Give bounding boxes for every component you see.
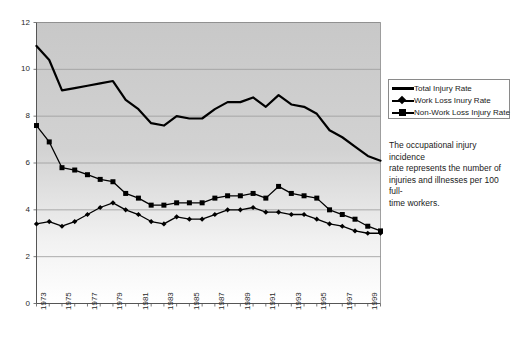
chart-figure: 024681012 197319751977197919811983198519… bbox=[0, 0, 513, 344]
x-axis-tick-label: 1995 bbox=[320, 292, 328, 310]
chart-note: The occupational injury incidencerate re… bbox=[389, 140, 513, 209]
y-axis-tick-label: 10 bbox=[8, 65, 30, 73]
legend-item-work-loss-injury-rate[interactable]: Work Loss Inury Rate bbox=[392, 95, 506, 106]
y-axis-tick-label: 8 bbox=[8, 112, 30, 120]
y-axis-tick-label: 2 bbox=[8, 253, 30, 261]
chart-note-line: injuries and illnesses per 100 full- bbox=[389, 175, 513, 198]
y-axis-tick-label: 4 bbox=[8, 206, 30, 214]
y-axis-tick-label: 0 bbox=[8, 300, 30, 308]
legend-label: Non-Work Loss Injury Rate bbox=[414, 108, 510, 117]
x-axis-tick-label: 1991 bbox=[269, 292, 277, 310]
chart-legend: Total Injury Rate Work Loss Inury Rate N… bbox=[388, 79, 510, 119]
legend-item-non-work-loss-injury-rate[interactable]: Non-Work Loss Injury Rate bbox=[392, 107, 506, 118]
chart-note-line: The occupational injury incidence bbox=[389, 140, 513, 163]
x-axis-tick-label: 1979 bbox=[116, 292, 124, 310]
x-axis-tick-label: 1985 bbox=[193, 292, 201, 310]
chart-note-line: rate represents the number of bbox=[389, 163, 513, 175]
x-axis-tick-label: 1999 bbox=[371, 292, 379, 310]
y-axis-tick-label: 12 bbox=[8, 19, 30, 27]
legend-line-key-icon bbox=[392, 83, 414, 94]
x-axis-tick-label: 1997 bbox=[346, 292, 354, 310]
legend-square-marker-icon bbox=[392, 107, 414, 118]
x-axis-tick-label: 1983 bbox=[167, 292, 175, 310]
legend-diamond-marker-icon bbox=[392, 95, 414, 106]
x-axis-tick-label: 1973 bbox=[40, 292, 48, 310]
x-axis-tick-label: 1987 bbox=[218, 292, 226, 310]
x-axis-tick-label: 1975 bbox=[65, 292, 73, 310]
x-axis-tick-label: 1993 bbox=[295, 292, 303, 310]
x-axis-tick-label: 1977 bbox=[91, 292, 99, 310]
legend-item-total-injury-rate[interactable]: Total Injury Rate bbox=[392, 83, 506, 94]
x-axis-tick-label: 1989 bbox=[244, 292, 252, 310]
chart-note-line: time workers. bbox=[389, 198, 513, 210]
x-axis-tick-label: 1981 bbox=[142, 292, 150, 310]
legend-label: Total Injury Rate bbox=[414, 84, 472, 93]
legend-label: Work Loss Inury Rate bbox=[414, 96, 491, 105]
y-axis-tick-label: 6 bbox=[8, 159, 30, 167]
